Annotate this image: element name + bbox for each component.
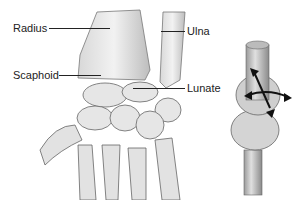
leader-line-scaphoid bbox=[59, 75, 101, 76]
carpal-bones bbox=[77, 82, 181, 139]
ulna-bone bbox=[160, 12, 185, 88]
leader-line-lunate bbox=[133, 88, 185, 89]
label-scaphoid: Scaphoid bbox=[13, 70, 59, 81]
label-lunate: Lunate bbox=[187, 83, 221, 94]
leader-line-ulna bbox=[161, 31, 185, 32]
metacarpal-bones bbox=[40, 125, 180, 200]
radius-bone bbox=[78, 10, 150, 80]
label-ulna: Ulna bbox=[187, 26, 210, 37]
ellipsoid-joint-model bbox=[231, 41, 292, 195]
label-radius: Radius bbox=[13, 23, 47, 34]
leader-line-radius bbox=[49, 28, 110, 29]
